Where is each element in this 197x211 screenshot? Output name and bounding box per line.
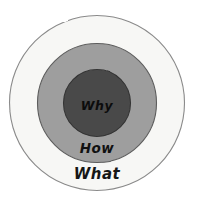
ring-label-what: What [74,165,121,183]
ring-label-how: How [80,140,115,156]
golden-circle-diagram: Why How What [0,0,197,211]
concentric-circles-svg: Why How What [0,0,197,211]
ring-label-why: Why [81,98,114,113]
